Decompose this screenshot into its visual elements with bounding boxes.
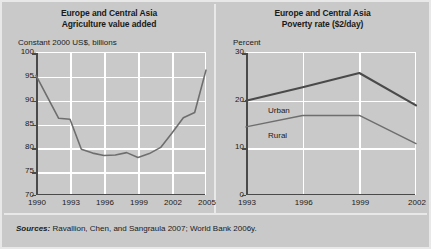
y-tick-label-left-80: 80 xyxy=(8,142,34,151)
series-line-agriculture xyxy=(36,53,206,196)
x-tick-label-right-1996: 1996 xyxy=(284,198,324,207)
chart-title-left-line1: Europe and Central Asia xyxy=(4,8,214,19)
x-tick-label-right-1993: 1993 xyxy=(227,198,267,207)
chart-title-right-line1: Europe and Central Asia xyxy=(216,8,429,19)
chart-title-left-line2: Agriculture value added xyxy=(4,19,214,30)
series-lines-poverty xyxy=(246,53,416,196)
chart-title-right-line2: Poverty rate ($2/day) xyxy=(216,19,429,30)
x-tick-label-right-1999: 1999 xyxy=(340,198,380,207)
y-axis-unit-right: Percent xyxy=(233,38,261,47)
chart-title-left: Europe and Central Asia Agriculture valu… xyxy=(4,8,214,29)
y-tick-label-left-90: 90 xyxy=(8,95,34,104)
series-label-urban: Urban xyxy=(268,106,290,115)
y-tick-label-left-75: 75 xyxy=(8,166,34,175)
y-tick-label-left-95: 95 xyxy=(8,71,34,80)
y-axis-unit-left: Constant 2000 US$, billions xyxy=(18,38,117,47)
chart-title-right: Europe and Central Asia Poverty rate ($2… xyxy=(216,8,429,29)
x-tick-label-right-2002: 2002 xyxy=(397,198,431,207)
plot-area-left xyxy=(36,52,206,195)
sources-note: Sources: Ravallion, Chen, and Sangraula … xyxy=(16,224,257,233)
y-tick-label-left-100: 100 xyxy=(8,47,34,56)
y-tick-label-left-85: 85 xyxy=(8,119,34,128)
plot-area-right xyxy=(246,52,416,195)
sources-bar: Sources: Ravallion, Chen, and Sangraula … xyxy=(4,213,427,245)
sources-label: Sources: xyxy=(16,224,50,233)
y-tick-label-right-30: 30 xyxy=(218,47,244,56)
figure-container: Europe and Central Asia Agriculture valu… xyxy=(0,0,431,249)
y-tick-label-right-10: 10 xyxy=(218,142,244,151)
chart-panel-agriculture: Europe and Central Asia Agriculture valu… xyxy=(4,2,214,217)
sources-body: Ravallion, Chen, and Sangraula 2007; Wor… xyxy=(50,224,257,233)
series-label-rural: Rural xyxy=(268,131,287,140)
y-tick-label-right-20: 20 xyxy=(218,95,244,104)
